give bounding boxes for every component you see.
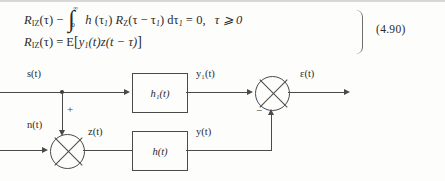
eq1-R-subscript: IZ [32, 19, 40, 28]
equation-right-brace [354, 10, 363, 54]
error-output-label: ε(t) [300, 68, 314, 79]
eq1-minus: − [56, 13, 63, 27]
eq2-R-arg: (τ) [40, 35, 54, 49]
equation-number: (4.90) [376, 23, 406, 35]
wire-noise-to-summer [0, 150, 43, 151]
page-top-rule [0, 0, 445, 2]
sum-output-label: z(t) [88, 126, 103, 137]
eq1-condition: τ ⩾ 0 [215, 13, 242, 27]
wire-summer-to-bottom-block [83, 150, 132, 151]
input-signal-label: s(t) [27, 68, 41, 79]
equation-line-2: RIZ(τ)=E[y1(t)z(t − τ)] [24, 34, 142, 50]
plus-sign: + [67, 103, 73, 115]
eq2-z-arg: (t − τ) [106, 35, 138, 49]
top-output-label: y₁(t) [196, 68, 215, 79]
integral-sign: ∫∞0 [66, 11, 82, 28]
eq2-expectation-operator: E [66, 35, 74, 49]
eq2-y-arg: (t) [89, 35, 101, 49]
minus-sign: − [256, 104, 262, 116]
arrow-into-signal-summer [42, 147, 48, 153]
arrow-into-top-block [124, 89, 130, 95]
eq1-R2-close: ) [160, 13, 164, 27]
eq2-R-subscript: IZ [32, 41, 40, 50]
eq1-h: h [85, 13, 91, 27]
wire-feedback-up [271, 114, 272, 151]
block-diagram: s(t) h₁(t) y₁(t) ε(t) + n(t) z(t) h(t) [0, 62, 445, 181]
eq1-differential-sub: 1 [179, 19, 183, 28]
wire-branch-down [62, 92, 63, 134]
top-filter-block[interactable]: h₁(t) [132, 73, 188, 113]
signal-summer[interactable] [50, 134, 85, 169]
bottom-filter-block[interactable]: h(t) [132, 131, 188, 171]
page-canvas: RIZ(τ)−∫∞0h(τ1)RZ(τ−τ1)dτ1= 0,τ ⩾ 0 RIZ(… [0, 0, 445, 181]
eq1-comma: , [203, 13, 206, 27]
noise-label: n(t) [27, 119, 42, 130]
arrow-feedback-into-summer [268, 109, 274, 115]
eq2-R: R [24, 35, 32, 49]
eq2-equals: = [56, 35, 63, 49]
eq1-h-arg-close: ) [108, 13, 112, 27]
equation-block: RIZ(τ)−∫∞0h(τ1)RZ(τ−τ1)dτ1= 0,τ ⩾ 0 RIZ(… [24, 9, 424, 57]
eq1-R2-minus: − [141, 13, 148, 27]
eq1-R-arg: (τ) [40, 13, 54, 27]
bottom-output-label: y(t) [196, 126, 211, 137]
arrow-error-output [344, 89, 350, 95]
wire-bottom-block-to-feedback [186, 150, 272, 151]
integral-upper-limit: ∞ [73, 4, 78, 11]
eq1-equals: = 0 [186, 13, 203, 27]
wire-top-block-to-sum [186, 92, 248, 93]
arrow-into-summer [247, 89, 253, 95]
eq2-bracket-close: ] [137, 34, 142, 49]
equation-line-1: RIZ(τ)−∫∞0h(τ1)RZ(τ−τ1)dτ1= 0,τ ⩾ 0 [24, 11, 242, 28]
top-filter-label: h₁(t) [151, 88, 170, 99]
integral-lower-limit: 0 [71, 21, 75, 29]
eq1-h-arg-open: (τ [95, 13, 104, 27]
bottom-filter-label: h(t) [152, 146, 167, 157]
eq1-R: R [24, 13, 32, 27]
eq1-R2-open: (τ [128, 13, 137, 27]
wire-error-output [288, 92, 345, 93]
eq1-differential: dτ [167, 13, 178, 27]
